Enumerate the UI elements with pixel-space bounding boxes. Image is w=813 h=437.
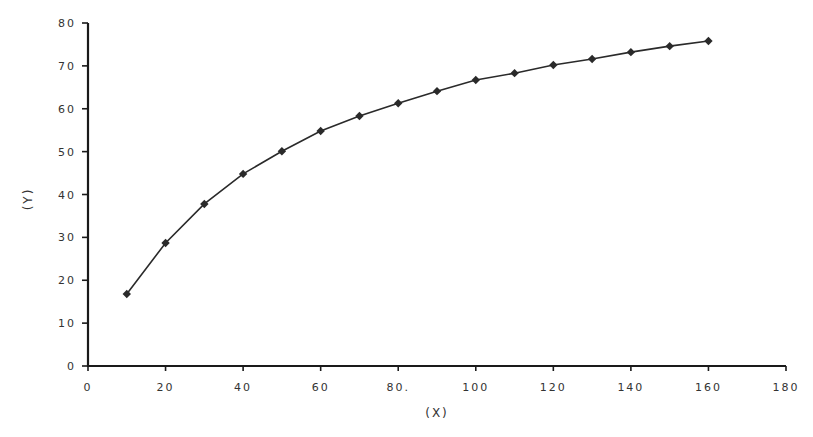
x-tick-label: 100 [462, 381, 489, 394]
x-tick-label: 40 [234, 381, 252, 394]
y-tick-label: 80 [58, 17, 76, 30]
x-tick-label: 20 [157, 381, 175, 394]
x-tick-label: 0 [84, 381, 93, 394]
line-chart: 01020304050607080 020406080.100120140160… [0, 0, 813, 437]
y-tick-label: 30 [58, 231, 76, 244]
data-point-marker [549, 61, 557, 69]
y-tick-label: 0 [67, 360, 76, 373]
x-axis-title: (X) [425, 406, 449, 420]
y-tick-label: 70 [58, 60, 76, 73]
x-tick-label: 140 [617, 381, 644, 394]
data-point-marker [316, 127, 324, 135]
y-axis: 01020304050607080 [58, 17, 88, 373]
y-tick-label: 40 [58, 189, 76, 202]
data-point-marker [627, 48, 635, 56]
data-point-marker [510, 69, 518, 77]
x-tick-label: 60 [312, 381, 330, 394]
data-series [123, 37, 713, 298]
x-tick-label: 120 [540, 381, 567, 394]
data-point-marker [278, 147, 286, 155]
x-tick-label: 80. [386, 381, 410, 394]
data-point-marker [588, 55, 596, 63]
data-point-marker [665, 42, 673, 50]
y-tick-label: 20 [58, 274, 76, 287]
y-axis-title: (Y) [21, 188, 35, 211]
data-point-marker [433, 87, 441, 95]
x-tick-label: 180 [773, 381, 800, 394]
y-tick-label: 50 [58, 146, 76, 159]
data-point-marker [355, 112, 363, 120]
x-tick-label: 160 [695, 381, 722, 394]
y-tick-label: 60 [58, 103, 76, 116]
x-axis: 020406080.100120140160180 [84, 366, 800, 394]
data-point-marker [704, 37, 712, 45]
data-point-marker [472, 76, 480, 84]
y-tick-label: 10 [58, 317, 76, 330]
data-point-marker [394, 99, 402, 107]
